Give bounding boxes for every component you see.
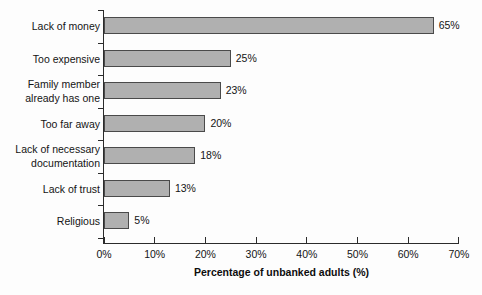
bar	[104, 50, 231, 67]
x-tick	[154, 237, 155, 244]
x-tick	[357, 237, 358, 244]
bar-row: 65%	[104, 10, 459, 43]
x-tick-label: 20%	[195, 247, 216, 261]
category-label: Lack of necessary documentation	[0, 143, 100, 170]
bar-chart: Lack of money Too expensive Family membe…	[0, 0, 482, 295]
x-tick-label: 0%	[96, 247, 111, 261]
bar-value-label: 23%	[226, 83, 247, 98]
x-axis-line	[103, 243, 459, 244]
x-tick-label: 10%	[144, 247, 165, 261]
bar-row: 18%	[104, 140, 459, 173]
x-tick	[306, 237, 307, 244]
category-label: Lack of trust	[0, 183, 100, 197]
bar-value-label: 25%	[236, 51, 257, 66]
bar-row: 13%	[104, 173, 459, 206]
category-label: Family member already has one	[0, 78, 100, 105]
plot-area: 65% 25% 23% 20% 18% 13% 5%	[104, 10, 459, 243]
x-axis-title: Percentage of unbanked adults (%)	[104, 266, 459, 278]
bar	[104, 82, 221, 99]
x-tick	[458, 237, 459, 244]
bar	[104, 212, 129, 229]
bar-value-label: 65%	[439, 18, 460, 33]
bar-value-label: 18%	[200, 148, 221, 163]
x-tick-label: 60%	[398, 247, 419, 261]
x-tick	[104, 237, 105, 244]
bar-row: 25%	[104, 43, 459, 76]
x-tick-label: 30%	[246, 247, 267, 261]
category-label: Religious	[0, 215, 100, 229]
bar	[104, 147, 195, 164]
x-tick	[408, 237, 409, 244]
bar-row: 5%	[104, 205, 459, 238]
bar-row: 20%	[104, 108, 459, 141]
category-label: Lack of money	[0, 20, 100, 34]
bar	[104, 180, 170, 197]
category-label: Too far away	[0, 118, 100, 132]
bar-value-label: 20%	[210, 116, 231, 131]
x-tick	[205, 237, 206, 244]
x-tick-label: 40%	[296, 247, 317, 261]
bar-row: 23%	[104, 75, 459, 108]
x-tick-label: 50%	[347, 247, 368, 261]
bar-value-label: 13%	[175, 181, 196, 196]
x-tick-label: 70%	[448, 247, 469, 261]
x-tick	[256, 237, 257, 244]
bar	[104, 115, 205, 132]
bar	[104, 17, 434, 34]
bar-value-label: 5%	[134, 213, 149, 228]
category-label: Too expensive	[0, 53, 100, 67]
